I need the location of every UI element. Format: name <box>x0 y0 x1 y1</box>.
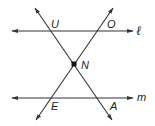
point-n-marker <box>72 62 77 67</box>
label-o: O <box>107 18 116 30</box>
label-a: A <box>109 100 117 112</box>
label-line-m: m <box>137 91 146 103</box>
label-e: E <box>51 100 59 112</box>
geometry-diagram: U O N E A ℓ m <box>0 0 155 126</box>
label-u: U <box>51 18 59 30</box>
label-line-l: ℓ <box>136 23 142 38</box>
label-n: N <box>81 59 89 71</box>
